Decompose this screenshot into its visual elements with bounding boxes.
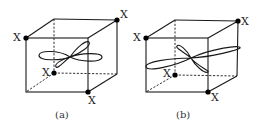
atom-b-front-bottom-right — [205, 89, 210, 94]
atom-a-back-top-right — [114, 17, 119, 22]
diagram-canvas: X X X X (a) — [0, 0, 259, 130]
orbital-lobes-b — [146, 45, 240, 72]
panel-a: X X X X (a) — [13, 8, 128, 120]
atom-a-front-top-left — [23, 35, 28, 40]
atom-a-back-bottom-left — [51, 70, 56, 75]
atom-label: X — [13, 31, 21, 44]
atom-labels-b: X X X X — [133, 15, 249, 104]
panel-caption-a: (a) — [55, 109, 69, 120]
panel-b: X X X X (b) — [133, 15, 249, 120]
atom-label: X — [211, 91, 219, 104]
atoms-b — [143, 18, 240, 94]
atom-label: X — [88, 94, 96, 107]
cube-b-edges — [146, 20, 238, 92]
atom-b-back-bottom-left — [172, 72, 177, 77]
panel-caption-b: (b) — [176, 109, 190, 120]
cube-b-hidden-edges — [146, 20, 237, 92]
orbital-lobes-a — [39, 42, 102, 68]
atom-label: X — [241, 15, 249, 28]
atom-b-front-top-left — [143, 35, 148, 40]
atom-label: X — [42, 66, 50, 79]
atom-label: X — [120, 8, 128, 21]
atom-label: X — [133, 31, 141, 44]
atom-label: X — [163, 67, 171, 80]
atom-b-back-top-right — [235, 18, 240, 23]
